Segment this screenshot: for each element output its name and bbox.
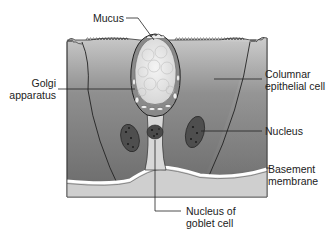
label-goblet-nucleus-line1: Nucleus of xyxy=(186,205,236,217)
label-columnar-line1: Columnar xyxy=(265,68,325,80)
label-golgi-line2: apparatus xyxy=(6,89,56,101)
diagram-illustration xyxy=(0,0,334,233)
label-basement-line1: Basement xyxy=(268,163,318,175)
label-golgi-apparatus: Golgi apparatus xyxy=(6,77,56,101)
goblet-nucleus xyxy=(147,125,163,139)
mucus-droplets xyxy=(135,38,176,105)
label-columnar-epithelial-cell: Columnar epithelial cell xyxy=(265,68,325,92)
label-nucleus-of-goblet-cell: Nucleus of goblet cell xyxy=(186,205,236,229)
label-nucleus: Nucleus xyxy=(265,125,303,137)
label-basement-membrane: Basement membrane xyxy=(268,163,318,187)
label-golgi-line1: Golgi xyxy=(6,77,56,89)
label-columnar-line2: epithelial cell xyxy=(265,80,325,92)
label-mucus: Mucus xyxy=(93,12,124,24)
label-basement-line2: membrane xyxy=(268,175,318,187)
goblet-cell-diagram: Mucus Golgi apparatus Columnar epithelia… xyxy=(0,0,334,233)
label-goblet-nucleus-line2: goblet cell xyxy=(186,217,236,229)
